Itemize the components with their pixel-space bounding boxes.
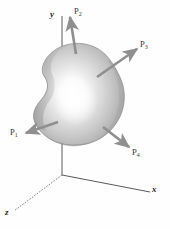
axis-label-x: x — [152, 185, 157, 194]
force-label-P3-sub: 3 — [145, 44, 148, 50]
force-label-P2: P2 — [74, 7, 82, 16]
force-label-P4: P4 — [132, 148, 140, 157]
diagram-svg — [0, 0, 170, 229]
axis-label-y: y — [50, 10, 54, 19]
force-label-P1-sub: 1 — [15, 132, 18, 138]
axis-x — [62, 175, 150, 192]
rigid-body-blob — [34, 43, 125, 146]
force-label-P2-sub: 2 — [79, 11, 82, 17]
force-label-P4-sub: 4 — [137, 152, 140, 158]
axis-z — [14, 175, 62, 211]
figure-canvas: y x z P2 P3 P1 P4 — [0, 0, 170, 229]
force-vector-P4 — [103, 127, 129, 147]
force-label-P1: P1 — [10, 128, 18, 137]
force-label-P3: P3 — [140, 40, 148, 49]
axis-label-z: z — [5, 208, 9, 217]
